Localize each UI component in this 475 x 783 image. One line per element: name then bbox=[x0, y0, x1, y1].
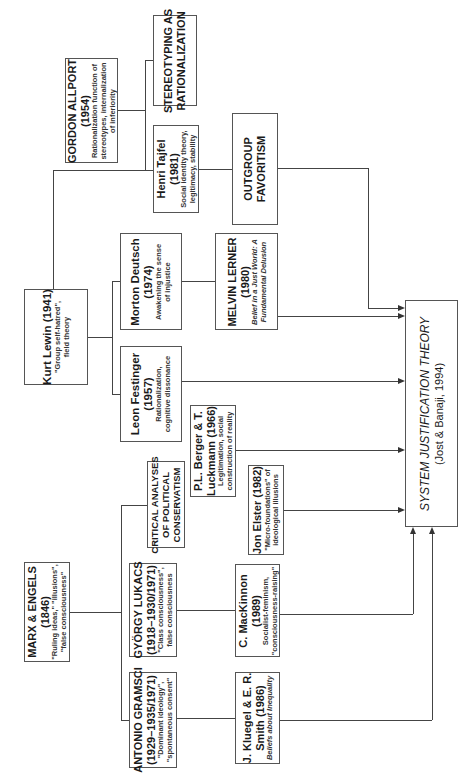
node-title: SYSTEM JUSTIFICATION THEORY bbox=[418, 316, 432, 510]
connector bbox=[121, 505, 122, 720]
arrow-icon bbox=[398, 507, 405, 513]
node-title: GYÖRGY LUKACS bbox=[132, 562, 145, 659]
node-gramsci: ANTONIO GRAMSCI (1929–1935/1971) "Domina… bbox=[129, 672, 177, 768]
arrow-icon bbox=[398, 305, 405, 311]
node-year: (1980) bbox=[238, 237, 251, 326]
arrow-icon bbox=[429, 527, 435, 534]
node-kluegel-smith: J. Kluegel & E. R. Smith (1986) Beliefs … bbox=[235, 672, 280, 764]
node-title: MARX & ENGELS bbox=[26, 564, 39, 660]
arrow-icon bbox=[398, 313, 405, 319]
connector bbox=[88, 337, 112, 338]
node-critical-analyses: CRITICAL ANALYSES OF POLITICAL CONSERVAT… bbox=[147, 461, 185, 548]
node-desc: of inferiority bbox=[108, 58, 117, 162]
node-title: Jon Elster (1982) bbox=[251, 466, 264, 554]
node-lewin: Kurt Lewin (1941) "Group self-hatred", f… bbox=[24, 289, 88, 385]
arrow-icon bbox=[410, 527, 416, 534]
connector bbox=[284, 510, 398, 511]
node-mackinnon: C. MacKinnon (1989) Socialist-feminism, … bbox=[235, 564, 280, 657]
connector bbox=[112, 281, 113, 394]
arrow-icon bbox=[398, 378, 405, 384]
node-title: CONSERVATISM bbox=[171, 456, 182, 553]
node-title: FAVORITISM bbox=[255, 136, 268, 202]
node-berger-luckmann: P.L. Berger & T. Luckmann (1966) Legitim… bbox=[190, 405, 236, 497]
node-desc: ideological illusions bbox=[272, 466, 281, 554]
node-title: RATIONALIZATION bbox=[175, 8, 188, 112]
node-marx-engels: MARX & ENGELS (1846) "Ruling ideas," "il… bbox=[24, 562, 70, 662]
connector bbox=[413, 534, 414, 614]
node-desc: "false consciousness" bbox=[60, 564, 69, 660]
connector bbox=[182, 281, 215, 282]
connector bbox=[278, 316, 398, 317]
node-desc: legitimacy, stability bbox=[189, 130, 198, 207]
node-citation: (Jost & Banaji, 1994) bbox=[432, 316, 445, 510]
connector bbox=[145, 60, 153, 61]
node-desc: cognitive dissonance bbox=[164, 353, 173, 435]
node-year: (1954) bbox=[79, 58, 92, 162]
node-title: Leon Festinger bbox=[129, 353, 142, 435]
connector bbox=[112, 394, 120, 395]
connector bbox=[145, 60, 146, 170]
node-title: Henri Tajfel bbox=[155, 130, 168, 207]
node-title: C. MacKinnon bbox=[236, 566, 249, 654]
connector bbox=[368, 168, 369, 308]
connector bbox=[177, 610, 235, 611]
node-desc: "spontaneous consent" bbox=[166, 667, 175, 773]
node-outgroup-favoritism: OUTGROUP FAVORITISM bbox=[232, 113, 278, 225]
node-stereotyping: STEREOTYPING AS RATIONALIZATION bbox=[153, 15, 197, 106]
node-title: ANTONIO GRAMSCI bbox=[132, 667, 145, 773]
connector bbox=[278, 168, 368, 169]
node-desc: Beliefs about Inequality bbox=[266, 673, 275, 763]
node-title: GORDON ALLPORT bbox=[66, 58, 79, 162]
node-festinger: Leon Festinger (1957) Rationalization, c… bbox=[120, 346, 182, 442]
node-desc: false consciousness bbox=[166, 562, 175, 659]
connector bbox=[280, 720, 432, 721]
connector bbox=[53, 170, 54, 290]
node-system-justification-theory: SYSTEM JUSTIFICATION THEORY (Jost & Bana… bbox=[405, 300, 458, 527]
node-title: MELVIN LERNER bbox=[225, 237, 238, 326]
connector bbox=[368, 308, 398, 309]
node-desc: field theory bbox=[63, 289, 72, 385]
node-lerner: MELVIN LERNER (1980) Belief in a Just Wo… bbox=[215, 233, 278, 330]
node-title: P.L. Berger & T. bbox=[192, 406, 205, 496]
connector bbox=[121, 505, 147, 506]
connector bbox=[280, 614, 413, 615]
node-desc: construction of reality bbox=[226, 406, 235, 496]
connector bbox=[53, 170, 145, 171]
connector bbox=[182, 381, 398, 382]
connector bbox=[121, 720, 129, 721]
node-desc: "consciousness-raising" bbox=[270, 566, 279, 654]
node-deutsch: Morton Deutsch (1974) Awakening the sens… bbox=[120, 233, 182, 330]
connector bbox=[236, 450, 398, 451]
node-desc: Fundamental Delusion bbox=[259, 237, 268, 326]
node-lukacs: GYÖRGY LUKACS (1918–1930/1971) "Class co… bbox=[129, 563, 177, 657]
node-year: (1989) bbox=[249, 566, 262, 654]
node-title: Morton Deutsch bbox=[129, 238, 142, 326]
connector bbox=[112, 281, 120, 282]
node-title: Smith (1986) bbox=[253, 673, 266, 763]
connector bbox=[177, 718, 235, 719]
node-title: STEREOTYPING AS bbox=[162, 8, 175, 112]
connector bbox=[432, 534, 433, 720]
connector bbox=[145, 170, 153, 171]
connector bbox=[118, 110, 145, 111]
connector bbox=[70, 612, 121, 613]
node-elster: Jon Elster (1982) "Micro-foundations" of… bbox=[248, 465, 284, 555]
arrow-icon bbox=[398, 447, 405, 453]
node-allport: GORDON ALLPORT (1954) Rationalization fu… bbox=[65, 58, 118, 163]
connector bbox=[199, 169, 232, 170]
node-tajfel: Henri Tajfel (1981) Social identity theo… bbox=[153, 125, 199, 213]
node-desc: stereotypes, internalization bbox=[100, 58, 109, 162]
node-desc: of injustice bbox=[164, 238, 173, 326]
node-title: J. Kluegel & E. R. bbox=[241, 673, 254, 763]
node-title: OUTGROUP bbox=[242, 136, 255, 202]
